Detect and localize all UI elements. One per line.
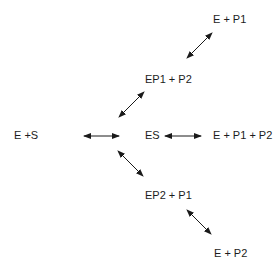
node-e-p2: E + P2: [214, 247, 247, 260]
node-ep1-p2: EP1 + P2: [145, 73, 192, 86]
node-enzyme-substrate: E +S: [14, 129, 38, 142]
arrow-ep2-to-e-p2: [187, 210, 211, 234]
node-es-complex: ES: [145, 129, 160, 142]
arrow-ep1-to-e-p1: [187, 33, 212, 58]
node-ep2-p1: EP2 + P1: [145, 189, 192, 202]
arrow-es-to-ep1: [119, 92, 144, 117]
node-e-p1: E + P1: [213, 13, 246, 26]
node-e-p1-p2: E + P1 + P2: [213, 129, 272, 142]
reaction-scheme-diagram: E +S ES EP1 + P2 E + P1 E + P1 + P2 EP2 …: [0, 0, 279, 272]
arrow-es-to-ep2: [118, 151, 143, 176]
